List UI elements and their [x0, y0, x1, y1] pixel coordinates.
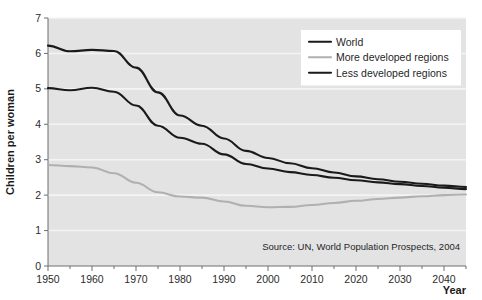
y-axis-title: Children per woman: [4, 89, 16, 195]
y-tick-label-3: 3: [35, 153, 41, 165]
x-tick-label-1990: 1990: [212, 273, 236, 285]
source-text: Source: UN, World Population Prospects, …: [262, 241, 460, 252]
x-tick-label-1950: 1950: [36, 273, 60, 285]
fertility-line-chart: 1950196019701980199020002010202020302040…: [0, 0, 482, 300]
x-tick-label-2020: 2020: [344, 273, 368, 285]
x-tick-label-2030: 2030: [388, 273, 412, 285]
y-tick-label-7: 7: [35, 12, 41, 24]
x-tick-label-1970: 1970: [124, 273, 148, 285]
x-tick-label-1980: 1980: [168, 273, 192, 285]
x-tick-label-2000: 2000: [256, 273, 280, 285]
y-tick-label-0: 0: [35, 260, 41, 272]
y-tick-label-2: 2: [35, 189, 41, 201]
source-annotation: Source: UN, World Population Prospects, …: [262, 241, 460, 252]
y-tick-label-6: 6: [35, 47, 41, 59]
chart-canvas: 1950196019701980199020002010202020302040…: [0, 0, 482, 300]
legend-label-1: More developed regions: [336, 51, 449, 63]
y-tick-label-1: 1: [35, 224, 41, 236]
legend: WorldMore developed regionsLess develope…: [301, 30, 461, 86]
legend-label-2: Less developed regions: [336, 67, 447, 79]
x-tick-label-2010: 2010: [300, 273, 324, 285]
legend-label-0: World: [336, 36, 363, 48]
y-tick-label-5: 5: [35, 82, 41, 94]
y-tick-label-4: 4: [35, 118, 41, 130]
x-tick-label-1960: 1960: [80, 273, 104, 285]
x-axis-title: Year: [443, 284, 467, 296]
